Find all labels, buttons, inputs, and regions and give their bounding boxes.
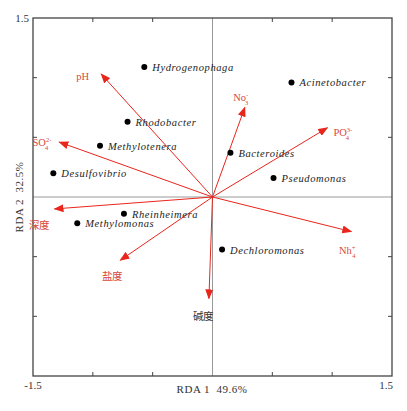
env-vector-label: PO3-4 [333,126,352,141]
x-axis-title: RDA 1 49.6% [177,383,248,395]
species-point [271,175,277,181]
y-tick-top: 1.5 [15,12,29,24]
env-vector-label: pH [76,71,89,82]
env-vector-label: Nh+4 [339,244,356,259]
species-points: HydrogenophagaAcinetobacterRhodobacterMe… [50,62,366,256]
rda-biplot: pHNo-3PO3-4SO2-4深度Nh+4盐度碱度 Hydrogenophag… [0,0,407,411]
species-point [288,79,294,85]
y-axis-title: RDA 2 32.5% [13,162,25,233]
species-point [121,211,127,217]
species-label: Methylomonas [84,218,154,229]
species-point [227,150,233,156]
env-vector-label: 碱度 [193,310,214,322]
species-label: Dechloromonas [229,245,305,256]
species-point [50,170,56,176]
species-label: Rhodobacter [135,117,197,128]
species-point [219,247,225,253]
species-point [125,119,131,125]
env-vector-arrow [213,197,352,232]
species-label: Bacteroides [238,148,294,159]
env-vector-arrow [55,197,213,209]
species-label: Methylotenera [107,141,177,152]
x-tick-right: 1.5 [379,379,393,391]
env-vector-arrow [213,128,328,197]
env-vector-label: 盐度 [102,270,123,282]
species-point [74,220,80,226]
species-label: Pseudomonas [281,173,347,184]
species-label: Desulfovibrio [60,168,127,179]
species-point [141,64,147,70]
env-vector-arrow [209,197,213,298]
env-vector-label: SO2-4 [32,136,51,151]
species-label: Acinetobacter [298,77,366,88]
env-vector-label: No-3 [233,91,248,106]
env-vector-label: 深度 [29,219,50,231]
species-point [97,143,103,149]
y-tick-bottom-x-tick-left: -1.5 [24,379,42,391]
species-label: Hydrogenophaga [151,62,234,73]
